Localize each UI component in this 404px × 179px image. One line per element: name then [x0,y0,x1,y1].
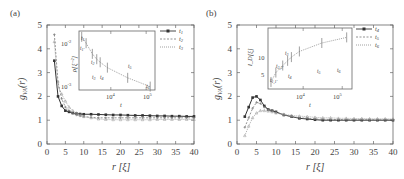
svg-text:105: 105 [333,92,343,100]
svg-text:5: 5 [228,20,233,30]
panel-b: (b) 012345 0510152025303540 gVA(r) r [ξ]… [206,8,398,173]
svg-text:l_D[ξ]: l_D[ξ] [246,48,254,66]
panel-b-label: (b) [206,8,217,18]
svg-text:25: 25 [134,147,144,157]
svg-text:10-3: 10-3 [61,82,72,90]
svg-text:t: t [120,101,122,108]
panel-a-legend: t1 t2 t3 [160,27,184,51]
svg-text:t3: t3 [179,43,184,51]
svg-text:104: 104 [106,92,116,100]
svg-text:t3: t3 [285,50,289,57]
svg-text:15: 15 [98,147,108,157]
svg-text:3: 3 [228,68,233,78]
svg-text:gVA(r): gVA(r) [16,77,28,100]
svg-text:t6: t6 [337,67,341,74]
svg-text:35: 35 [171,147,181,157]
svg-text:0: 0 [235,147,240,157]
svg-text:2: 2 [38,91,43,101]
svg-text:30: 30 [350,147,360,157]
svg-text:10: 10 [79,147,89,157]
svg-text:t1': t1' [80,45,85,52]
svg-text:t2: t2 [91,59,95,66]
svg-text:3: 3 [38,68,43,78]
svg-text:t3: t3 [92,74,96,81]
svg-text:gVA(r): gVA(r) [211,77,223,100]
svg-text:t1: t1 [81,35,85,42]
svg-text:20: 20 [311,147,321,157]
svg-text:t1,1': t1,1' [270,77,278,85]
panel-b-inset: 10 5 104 105 t l_D[ξ] t1,1' t2,2' t3 t4 … [246,28,352,108]
svg-text:40: 40 [389,147,399,157]
svg-text:t2,2': t2,2' [276,63,284,71]
panel-a-x-label: r [ξ] [112,161,131,173]
svg-text:1: 1 [38,115,43,125]
svg-text:t5: t5 [317,68,321,75]
svg-text:0: 0 [38,139,43,149]
svg-text:t4: t4 [375,25,380,33]
svg-text:40: 40 [190,147,200,157]
svg-text:t4: t4 [288,73,292,80]
svg-text:t6: t6 [375,41,380,49]
svg-text:20: 20 [116,147,126,157]
panel-b-legend: t4 t5 t6 [356,25,380,49]
svg-text:10-2: 10-2 [61,39,71,47]
svg-text:10: 10 [258,54,265,61]
figure: (a) 012345 0510152025303540 gVA(r) r [ξ]… [0,0,404,179]
svg-text:4: 4 [38,44,43,54]
panel-a-label: (a) [10,8,20,18]
svg-text:1: 1 [228,115,233,125]
svg-text:10: 10 [272,147,282,157]
svg-text:0: 0 [228,139,233,149]
panel-b-y-label: gVA(r) [211,77,223,100]
svg-text:5: 5 [63,147,68,157]
panel-b-x-label: r [ξ] [306,161,325,173]
svg-text:t1: t1 [179,27,183,35]
svg-text:t6: t6 [146,83,150,90]
svg-text:t: t [309,101,311,108]
svg-text:ρ[ξ⁻²]: ρ[ξ⁻²] [70,56,78,73]
svg-text:5: 5 [38,20,43,30]
svg-text:t2: t2 [179,35,184,43]
svg-text:35: 35 [369,147,379,157]
svg-text:0: 0 [45,147,50,157]
svg-text:4: 4 [228,44,233,54]
svg-text:t4: t4 [100,74,104,81]
panel-a-inset: 10-2 10-3 104 105 t ρ[ξ⁻²] t1 t1' t2 t3 … [61,31,155,108]
svg-text:5: 5 [261,71,264,78]
panel-a: (a) 012345 0510152025303540 gVA(r) r [ξ]… [10,8,199,173]
svg-text:25: 25 [330,147,340,157]
svg-text:104: 104 [296,92,306,100]
panel-b-series [244,95,395,137]
svg-text:t5: t5 [375,33,380,41]
svg-text:2: 2 [228,91,233,101]
svg-text:15: 15 [291,147,301,157]
svg-text:30: 30 [153,147,163,157]
svg-text:t5: t5 [128,63,132,70]
svg-text:5: 5 [254,147,259,157]
svg-text:105: 105 [143,92,153,100]
panel-a-y-label: gVA(r) [16,77,28,100]
